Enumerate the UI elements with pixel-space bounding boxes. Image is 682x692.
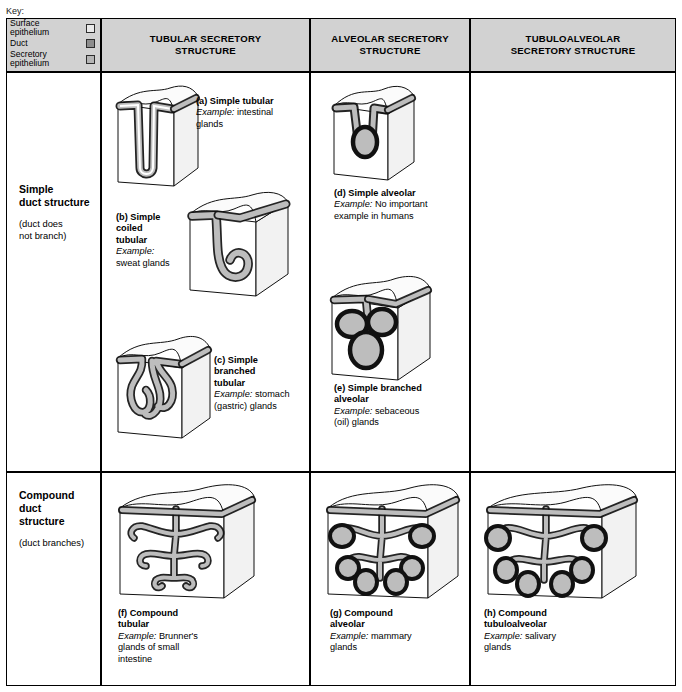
column-header-tubular: TUBULAR SECRETORYSTRUCTURE — [101, 18, 310, 72]
row-header-simple-duct: Simple duct structure (duct does not bra… — [6, 72, 101, 472]
figure-e-simple-branched-alveolar — [322, 266, 444, 388]
cell-simple-tubuloalveolar-empty — [470, 72, 676, 472]
figure-c-simple-branched-tubular — [112, 328, 218, 442]
figure-f-compound-tubular — [112, 478, 262, 606]
column-header-alveolar: ALVEOLAR SECRETORYSTRUCTURE — [310, 18, 470, 72]
caption-g: (g) Compound alveolar Example: mammary g… — [330, 608, 445, 654]
caption-h: (h) Compound tubuloalveolar Example: sal… — [484, 608, 604, 654]
caption-a: (a) Simple tubular Example: intestinal g… — [196, 96, 301, 130]
caption-e: (e) Simple branched alveolar Example: se… — [334, 383, 462, 429]
row-header-sub: (duct branches) — [19, 537, 94, 549]
figure-b-simple-coiled-tubular — [182, 186, 300, 304]
gland-classification-figure: Key: Surface epithelium Duct Secretory e… — [0, 0, 682, 692]
caption-b: (b) Simple coiled tubular Example: sweat… — [116, 212, 186, 269]
figure-g-compound-alveolar — [320, 478, 466, 606]
caption-d: (d) Simple alveolar Example: No importan… — [334, 188, 459, 222]
figure-a-simple-tubular — [112, 78, 204, 190]
row-header-sub: (duct does not branch) — [19, 218, 94, 242]
figure-d-simple-alveolar — [326, 78, 424, 183]
row-header-compound-duct: Compound duct structure (duct branches) — [6, 472, 101, 686]
column-header-tubuloalveolar: TUBULOALVEOLARSECRETORY STRUCTURE — [470, 18, 676, 72]
caption-c: (c) Simple branched tubular Example: sto… — [214, 355, 306, 412]
key-title: Key: — [6, 6, 24, 16]
figure-h-compound-tubuloalveolar — [478, 478, 648, 606]
caption-f: (f) Compound tubular Example: Brunner's … — [118, 608, 228, 665]
